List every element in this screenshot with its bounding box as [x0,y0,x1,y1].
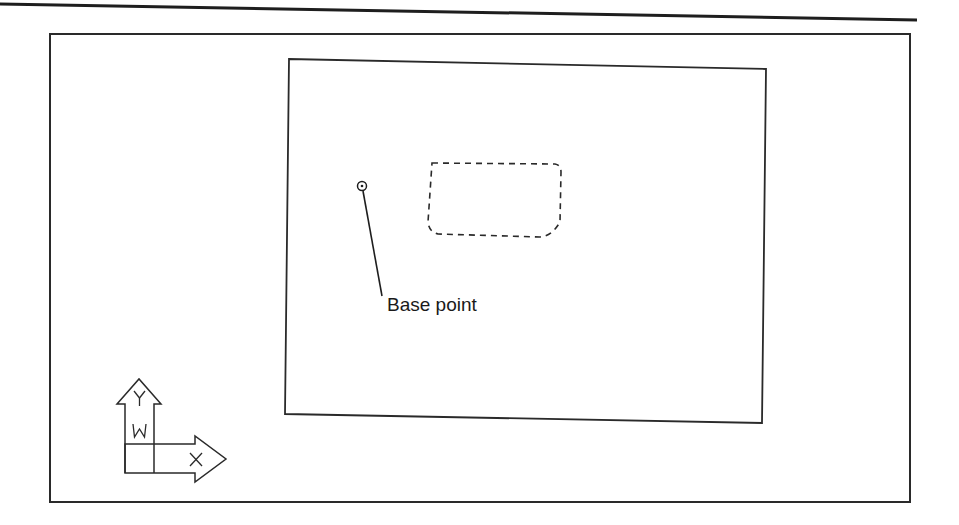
ucs-x-axis-arrow-icon [125,436,226,482]
base-point-leader-line [363,191,382,296]
viewport-rectangle [285,59,766,423]
base-point-label: Base point [387,294,478,315]
dashed-selection-object[interactable] [428,163,561,237]
base-point-annotation: Base point [358,182,478,316]
ucs-x-label [190,453,202,466]
ucs-w-label [133,424,146,437]
base-point-center-dot [361,185,364,188]
outer-frame [50,34,910,502]
ucs-y-label [134,391,145,406]
top-rule-line [0,4,917,20]
ucs-icon: Y W X [117,379,226,482]
drawing-canvas: Base point Y W X [0,0,959,525]
